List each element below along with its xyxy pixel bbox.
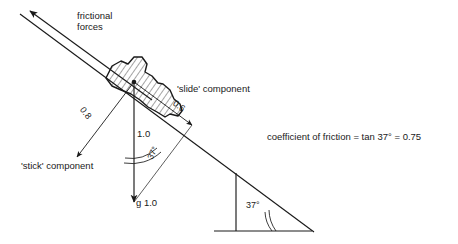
stick-component-label: 'stick' component [21,161,93,172]
slide-component-label: 'slide' component [177,84,250,95]
triangle-angle-label: 37° [246,200,260,210]
coefficient-of-friction-label: coefficient of friction = tan 37° = 0.75 [267,132,421,143]
diagram-vector-layer [0,0,458,244]
frictional-forces-label: frictionalforces [77,11,112,33]
block-shape [106,57,182,117]
weight-vector-label: g 1.0 [136,198,157,209]
frictional-forces-line-1: frictional [77,10,112,21]
weight-magnitude-label: 1.0 [137,129,150,140]
incline-surface-line [20,14,314,232]
reference-triangle [214,173,312,231]
physics-diagram-canvas: frictionalforces 'slide' component 'stic… [0,0,458,244]
frictional-forces-line-2: forces [77,21,103,32]
triangle-angle-arc [265,210,276,231]
